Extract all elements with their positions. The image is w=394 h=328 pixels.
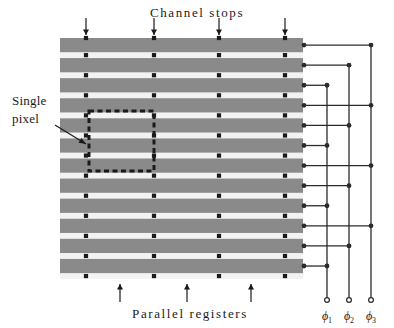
channel-stops-label: Channel stops (150, 5, 244, 20)
channel-stop-marker (283, 174, 287, 178)
register-tap-dot (302, 223, 307, 228)
channel-stop-marker (217, 194, 221, 198)
channel-stop-marker (217, 113, 221, 117)
parallel-register-bar (60, 58, 303, 72)
channel-stop-marker (84, 194, 88, 198)
register-tap-dot (302, 123, 307, 128)
channel-stop-arrow-head (282, 30, 288, 36)
channel-stop-marker (84, 153, 88, 157)
channel-stop-marker (217, 73, 221, 77)
register-tap-dot (302, 203, 307, 208)
channel-stop-marker (283, 93, 287, 97)
channel-stop-marker (283, 274, 287, 278)
parallel-register-stack (60, 38, 303, 279)
register-tap-dot (302, 163, 307, 168)
ccd-parallel-register-diagram: Singlepixel Channel stops Parallel regis… (0, 0, 394, 328)
channel-stop-marker (152, 53, 156, 57)
channel-stop-marker (152, 73, 156, 77)
channel-stop-marker (84, 234, 88, 238)
parallel-register-bar (60, 179, 303, 193)
channel-stop-marker (152, 274, 156, 278)
parallel-register-bar (60, 78, 303, 92)
channel-stop-marker (152, 93, 156, 97)
parallel-register-arrow-head (117, 284, 123, 290)
single-pixel-label-line2: pixel (12, 111, 39, 126)
single-pixel-label-line1: Single (12, 93, 46, 108)
channel-stop-marker (283, 194, 287, 198)
phase-terminal-labels: ϕ1ϕ2ϕ3 (322, 309, 376, 325)
parallel-register-bar (60, 239, 303, 253)
register-tap-dot (302, 63, 307, 68)
channel-stop-marker (283, 254, 287, 258)
parallel-register-bar (60, 199, 303, 213)
channel-stop-marker (217, 274, 221, 278)
channel-stop-arrow-head (151, 30, 157, 36)
parallel-register-arrow-head (248, 284, 254, 290)
channel-stop-marker (152, 194, 156, 198)
channel-stop-marker (283, 36, 287, 40)
register-tap-dot (302, 103, 307, 108)
channel-stop-marker (217, 36, 221, 40)
phase-terminal-phi-3[interactable] (369, 298, 374, 303)
phase-terminal-phi-2[interactable] (347, 298, 352, 303)
register-tap-dot (302, 83, 307, 88)
channel-stop-marker (84, 36, 88, 40)
parallel-register-bar (60, 219, 303, 233)
phase-clock-wiring (302, 43, 374, 303)
channel-stop-marker (283, 234, 287, 238)
phase-label-phi-3: ϕ3 (366, 309, 376, 325)
channel-stop-marker (84, 133, 88, 137)
register-tap-dot (302, 43, 307, 48)
register-tap-dot (302, 244, 307, 249)
channel-stop-marker (283, 113, 287, 117)
channel-stop-arrow-head (83, 30, 89, 36)
channel-stop-marker (84, 214, 88, 218)
channel-stop-marker (84, 254, 88, 258)
channel-stop-marker (283, 133, 287, 137)
channel-stop-marker (217, 234, 221, 238)
channel-stop-marker (283, 73, 287, 77)
channel-stop-marker (217, 133, 221, 137)
ccd-diagram-figure: Singlepixel Channel stops Parallel regis… (0, 0, 394, 328)
phase-label-phi-2: ϕ2 (344, 309, 354, 325)
register-tap-dot (302, 264, 307, 269)
channel-stop-marker (217, 214, 221, 218)
parallel-register-arrow-head (184, 284, 190, 290)
channel-stop-marker (84, 113, 88, 117)
register-tap-dot (302, 183, 307, 188)
channel-stop-marker (217, 53, 221, 57)
channel-stop-marker (84, 174, 88, 178)
phase-terminal-phi-1[interactable] (325, 298, 330, 303)
channel-stop-marker (152, 254, 156, 258)
parallel-register-bar (60, 259, 303, 273)
parallel-register-bar (60, 138, 303, 152)
parallel-register-bar (60, 118, 303, 132)
channel-stop-marker (84, 93, 88, 97)
phase-label-phi-1: ϕ1 (322, 309, 332, 325)
channel-stop-marker (217, 153, 221, 157)
channel-stop-marker (84, 53, 88, 57)
parallel-registers-label: Parallel registers (132, 306, 248, 321)
channel-stop-marker (283, 214, 287, 218)
channel-stop-marker (84, 274, 88, 278)
channel-stop-marker (283, 153, 287, 157)
channel-stop-marker (152, 214, 156, 218)
channel-stop-marker (217, 93, 221, 97)
channel-stop-marker (152, 234, 156, 238)
register-tap-dot (302, 143, 307, 148)
channel-stop-marker (152, 174, 156, 178)
channel-stop-marker (152, 36, 156, 40)
channel-stop-marker (283, 53, 287, 57)
channel-stop-marker (217, 254, 221, 258)
channel-stop-arrow-head (216, 30, 222, 36)
channel-stop-marker (84, 73, 88, 77)
channel-stop-marker (217, 174, 221, 178)
parallel-register-bar (60, 38, 303, 52)
parallel-register-bar (60, 98, 303, 112)
